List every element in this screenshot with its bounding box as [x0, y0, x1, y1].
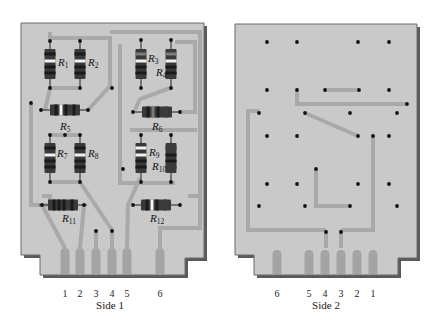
- edge-connector-pad-5: [123, 248, 132, 274]
- via-hole: [257, 111, 261, 115]
- via-hole: [78, 180, 82, 184]
- via-hole: [78, 39, 82, 43]
- via-hole: [131, 203, 135, 207]
- board-side-1: 123456R1R2R3R4R5R6R7R8R9R10R11R12Side 1: [21, 23, 207, 311]
- edge-connector-pad-1: [369, 250, 378, 274]
- via-hole: [387, 134, 391, 138]
- via-hole: [40, 203, 44, 207]
- via-hole: [356, 40, 360, 44]
- pcb-diagram: 123456R1R2R3R4R5R6R7R8R9R10R11R12Side 1 …: [0, 0, 431, 320]
- via-hole: [121, 167, 125, 171]
- via-hole: [339, 230, 343, 234]
- via-hole: [357, 88, 361, 92]
- via-hole: [395, 111, 399, 115]
- via-hole: [48, 180, 52, 184]
- via-hole: [178, 203, 182, 207]
- via-hole: [295, 40, 299, 44]
- via-hole: [371, 134, 375, 138]
- via-hole: [86, 108, 90, 112]
- board-side-2: 654321Side 2: [235, 24, 420, 311]
- via-hole: [387, 40, 391, 44]
- via-hole: [265, 134, 269, 138]
- edge-connector-pad-3: [337, 250, 346, 274]
- pin-label-6: 6: [275, 288, 280, 299]
- pin-label-4: 4: [110, 288, 115, 299]
- via-hole: [295, 134, 299, 138]
- edge-connector-pad-4: [321, 250, 330, 274]
- pin-label-6: 6: [158, 288, 163, 299]
- via-hole: [169, 38, 173, 42]
- via-hole: [48, 39, 52, 43]
- edge-connector-pad-1: [61, 248, 70, 274]
- via-hole: [131, 110, 135, 114]
- edge-connector-pad-6: [156, 248, 165, 274]
- via-hole: [178, 110, 182, 114]
- via-hole: [348, 111, 352, 115]
- pin-label-3: 3: [339, 288, 344, 299]
- pin-label-5: 5: [125, 288, 130, 299]
- via-hole: [94, 229, 98, 233]
- via-hole: [295, 182, 299, 186]
- via-hole: [139, 180, 143, 184]
- via-hole: [295, 88, 299, 92]
- via-hole: [405, 102, 409, 106]
- via-hole: [169, 133, 173, 137]
- via-hole: [139, 86, 143, 90]
- via-hole: [169, 180, 173, 184]
- edge-connector-pad-4: [108, 248, 117, 274]
- via-hole: [110, 86, 114, 90]
- via-hole: [169, 86, 173, 90]
- via-hole: [265, 88, 269, 92]
- pin-label-1: 1: [371, 288, 376, 299]
- pin-label-3: 3: [94, 288, 99, 299]
- pin-label-1: 1: [63, 288, 68, 299]
- edge-connector-pad-5: [305, 250, 314, 274]
- via-hole: [314, 167, 318, 171]
- via-hole: [82, 203, 86, 207]
- via-hole: [356, 134, 360, 138]
- via-hole: [395, 204, 399, 208]
- via-hole: [63, 133, 67, 137]
- via-hole: [48, 86, 52, 90]
- pin-label-4: 4: [323, 288, 328, 299]
- via-hole: [48, 133, 52, 137]
- via-hole: [139, 133, 143, 137]
- via-hole: [265, 182, 269, 186]
- via-hole: [29, 101, 33, 105]
- edge-connector-pad-6: [273, 250, 282, 274]
- via-hole: [303, 204, 307, 208]
- via-hole: [323, 88, 327, 92]
- via-hole: [348, 204, 352, 208]
- via-hole: [387, 182, 391, 186]
- via-hole: [110, 229, 114, 233]
- edge-connector-pad-3: [92, 248, 101, 274]
- edge-connector-pad-2: [353, 250, 362, 274]
- pin-label-2: 2: [355, 288, 360, 299]
- via-hole: [303, 111, 307, 115]
- via-hole: [78, 86, 82, 90]
- via-hole: [324, 230, 328, 234]
- side-caption-side1: Side 1: [96, 299, 124, 311]
- edge-connector-pad-2: [76, 248, 85, 274]
- via-hole: [39, 108, 43, 112]
- via-hole: [265, 40, 269, 44]
- side-caption-side2: Side 2: [312, 299, 340, 311]
- via-hole: [257, 204, 261, 208]
- via-hole: [356, 182, 360, 186]
- via-hole: [78, 133, 82, 137]
- pin-label-5: 5: [307, 288, 312, 299]
- via-hole: [387, 88, 391, 92]
- pin-label-2: 2: [78, 288, 83, 299]
- via-hole: [139, 38, 143, 42]
